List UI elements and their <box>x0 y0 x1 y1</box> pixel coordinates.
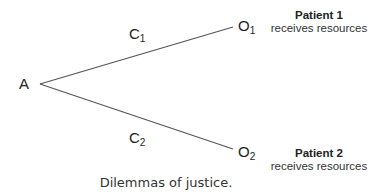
outcome-desc-1: receives resources <box>264 22 374 35</box>
outcome-title-2: Patient 2 <box>264 147 374 160</box>
outcome-description-2: Patient 2 receives resources <box>264 147 374 173</box>
outcome-description-1: Patient 1 receives resources <box>264 9 374 35</box>
outcome-desc-2: receives resources <box>264 160 374 173</box>
outcome-node-2: O2 <box>238 144 255 162</box>
choice-label-2: C2 <box>129 130 145 148</box>
choice-label-1: C1 <box>129 26 145 44</box>
outcome-node-1: O1 <box>238 18 255 36</box>
outcome-title-1: Patient 1 <box>264 9 374 22</box>
root-node-label: A <box>19 76 29 91</box>
figure-caption: Dilemmas of justice. <box>0 175 332 190</box>
